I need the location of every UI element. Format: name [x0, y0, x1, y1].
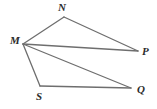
segment-NP: [64, 17, 138, 51]
segment-MN: [23, 17, 64, 44]
vertex-label-P: P: [142, 46, 149, 57]
segment-SQ: [40, 86, 131, 88]
geometry-figure: M N P S Q: [0, 0, 157, 109]
vertex-label-N: N: [58, 2, 66, 13]
segment-MQ: [23, 44, 131, 88]
vertex-label-M: M: [10, 35, 20, 46]
geometry-canvas: [0, 0, 157, 109]
vertex-label-Q: Q: [137, 84, 145, 95]
segment-group: [23, 17, 138, 88]
vertex-label-S: S: [36, 91, 42, 102]
segment-MP: [23, 44, 138, 51]
